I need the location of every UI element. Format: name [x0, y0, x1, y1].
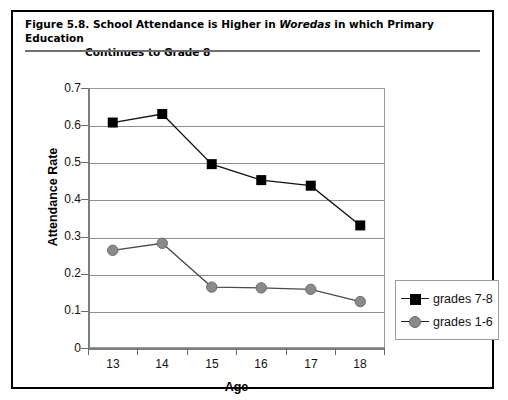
- x-tick-mark-2: [187, 348, 188, 355]
- data-point-grades-7-8-14[interactable]: [157, 109, 167, 119]
- data-point-grades-7-8-18[interactable]: [355, 220, 365, 230]
- data-point-grades-1-6-15[interactable]: [207, 282, 217, 292]
- x-tick-mark-start: [88, 348, 89, 355]
- x-axis-title: Age: [88, 380, 385, 394]
- series-line-grades-7-8: [113, 114, 361, 225]
- figure-title-italic-term: Woredas: [279, 18, 330, 30]
- series-grades-1-6: [108, 238, 366, 307]
- figure-title-line2: Continues to Grade 8: [85, 45, 475, 59]
- data-point-grades-7-8-13[interactable]: [108, 118, 118, 128]
- data-point-grades-1-6-13[interactable]: [108, 245, 118, 255]
- data-point-grades-7-8-16[interactable]: [256, 175, 266, 185]
- series-layer: [88, 88, 385, 348]
- legend-marker-square-icon: [401, 292, 429, 306]
- series-grades-7-8: [108, 109, 366, 230]
- legend-label-grades-1-6: grades 1-6: [429, 315, 493, 329]
- x-tick-mark-1: [137, 348, 138, 355]
- legend-item-grades-7-8[interactable]: grades 7-8: [401, 287, 493, 310]
- chart-legend: grades 7-8 grades 1-6: [395, 280, 499, 340]
- x-tick-mark-5: [335, 348, 336, 355]
- y-tick-label-0.5: 0.5: [43, 155, 81, 169]
- series-line-grades-1-6: [113, 243, 361, 301]
- data-point-grades-7-8-17[interactable]: [306, 181, 316, 191]
- y-tick-label-0.3: 0.3: [43, 229, 81, 243]
- chart-plot-area: Attendance Rate 0.7 0.6 0.5 0.4 0.3 0.2 …: [13, 60, 492, 389]
- y-tick-label-0.4: 0.4: [43, 192, 81, 206]
- figure-number: Figure 5.8.: [25, 17, 89, 31]
- y-tick-label-0.6: 0.6: [43, 118, 81, 132]
- data-point-grades-7-8-15[interactable]: [207, 159, 217, 169]
- x-tick-mark-3: [236, 348, 237, 355]
- caption-divider: [25, 50, 480, 52]
- y-axis-tick-labels: 0.7 0.6 0.5 0.4 0.3 0.2 0.1 0: [33, 60, 81, 389]
- x-tick-mark-4: [286, 348, 287, 355]
- y-tick-label-0: 0: [43, 341, 81, 355]
- data-point-grades-1-6-16[interactable]: [256, 283, 266, 293]
- x-tick-label-16: 16: [241, 357, 281, 371]
- legend-label-grades-7-8: grades 7-8: [429, 292, 493, 306]
- data-point-grades-1-6-18[interactable]: [355, 296, 365, 306]
- figure-frame: Figure 5.8. School Attendance is Higher …: [11, 10, 494, 389]
- legend-marker-circle-icon: [401, 315, 429, 329]
- data-point-grades-1-6-14[interactable]: [157, 238, 167, 248]
- x-tick-mark-end: [384, 348, 385, 355]
- y-tick-label-0.7: 0.7: [43, 81, 81, 95]
- y-tick-label-0.2: 0.2: [43, 266, 81, 280]
- x-tick-label-15: 15: [192, 357, 232, 371]
- x-tick-label-17: 17: [291, 357, 331, 371]
- x-tick-label-18: 18: [340, 357, 380, 371]
- data-point-grades-1-6-17[interactable]: [306, 284, 316, 294]
- x-tick-label-13: 13: [93, 357, 133, 371]
- legend-item-grades-1-6[interactable]: grades 1-6: [401, 310, 493, 333]
- x-tick-label-14: 14: [142, 357, 182, 371]
- figure-caption: Figure 5.8. School Attendance is Higher …: [25, 17, 475, 59]
- y-tick-label-0.1: 0.1: [43, 303, 81, 317]
- figure-title-part1: School Attendance is Higher in: [93, 18, 279, 30]
